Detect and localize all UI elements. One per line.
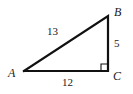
- vertex-label-c: C: [113, 70, 121, 82]
- vertex-label-b: B: [114, 6, 121, 18]
- triangle-outline: [24, 16, 108, 71]
- triangle-diagram: A B C 13 5 12: [0, 0, 133, 94]
- side-label-base: 12: [62, 77, 73, 88]
- side-label-vertical: 5: [114, 38, 120, 49]
- side-label-hypotenuse: 13: [47, 26, 58, 37]
- vertex-label-a: A: [8, 67, 15, 79]
